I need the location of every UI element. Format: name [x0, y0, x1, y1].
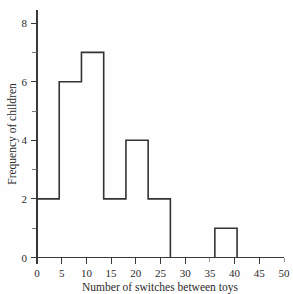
- y-tick-label: 0: [22, 252, 28, 264]
- x-tick-label: 20: [130, 267, 142, 279]
- y-tick-label: 6: [22, 76, 28, 88]
- y-axis-major-ticks: [31, 23, 37, 257]
- x-tick-label: 35: [204, 267, 216, 279]
- y-tick-label: 8: [22, 17, 28, 29]
- x-axis-tick-labels: 0 5 10 15 20 25 30 35 40 45 50: [34, 267, 290, 279]
- x-tick-label: 30: [180, 267, 192, 279]
- x-tick-label: 45: [254, 267, 266, 279]
- x-tick-label: 15: [106, 267, 118, 279]
- x-axis-title: Number of switches between toys: [82, 281, 238, 294]
- y-tick-label: 2: [22, 193, 28, 205]
- x-tick-label: 40: [229, 267, 241, 279]
- x-tick-label: 50: [279, 267, 291, 279]
- y-tick-label: 4: [22, 134, 28, 146]
- x-tick-label: 25: [155, 267, 167, 279]
- x-tick-label: 0: [34, 267, 40, 279]
- histogram-chart: 0 2 4 6 8 0 5 10 15 20 25: [0, 0, 293, 294]
- chart-canvas: 0 2 4 6 8 0 5 10 15 20 25: [0, 0, 293, 294]
- histogram-bars: [37, 52, 237, 257]
- x-tick-label: 5: [59, 267, 65, 279]
- y-axis-title: Frequency of children: [6, 83, 19, 185]
- x-tick-label: 10: [81, 267, 93, 279]
- x-axis-ticks: [37, 258, 284, 265]
- y-axis-tick-labels: 0 2 4 6 8: [22, 17, 28, 263]
